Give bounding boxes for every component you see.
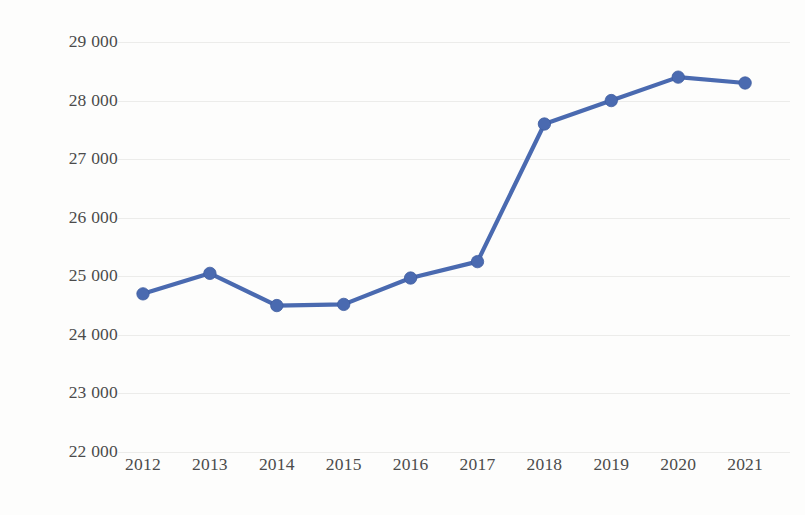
data-point-marker (739, 77, 751, 89)
data-point-marker (338, 298, 350, 310)
series-line-path (143, 77, 745, 305)
data-point-marker (605, 94, 617, 106)
series-markers (137, 71, 752, 312)
line-chart: 29 00028 00027 00026 00025 00024 00023 0… (0, 0, 805, 515)
data-point-marker (471, 255, 483, 267)
data-point-marker (204, 267, 216, 279)
data-point-marker (271, 299, 283, 311)
series-layer (0, 0, 805, 515)
data-point-marker (538, 118, 550, 130)
data-point-marker (404, 272, 416, 284)
data-point-marker (137, 288, 149, 300)
data-point-marker (672, 71, 684, 83)
